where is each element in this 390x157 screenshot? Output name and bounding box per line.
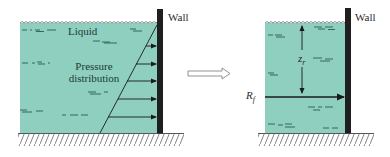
- pressure-distribution-label: Pressure distribution: [68, 60, 120, 84]
- force-label-rf: Rf: [246, 90, 255, 104]
- wall-right: [345, 8, 351, 134]
- hollow-right-arrow-icon: [188, 68, 230, 79]
- right-panel: [258, 8, 374, 146]
- depth-label-sub: r: [302, 58, 305, 67]
- wall-left: [157, 9, 163, 134]
- force-label-sub: f: [253, 95, 255, 104]
- liquid-body-right: [265, 23, 346, 133]
- wall-label-left: Wall: [168, 12, 189, 23]
- liquid-surface: [20, 22, 158, 24]
- ground-hatch-left: [18, 134, 184, 146]
- force-label-base: R: [246, 89, 253, 101]
- pressure-label-line2: distribution: [68, 72, 120, 84]
- liquid-label: Liquid: [68, 26, 97, 37]
- depth-label-zr: zr: [297, 53, 306, 67]
- ground-hatch-right: [258, 134, 374, 146]
- diagram-canvas: [0, 0, 390, 157]
- pressure-label-line1: Pressure: [68, 60, 120, 72]
- liquid-surface-right: [265, 22, 346, 24]
- wall-label-right: Wall: [355, 12, 376, 23]
